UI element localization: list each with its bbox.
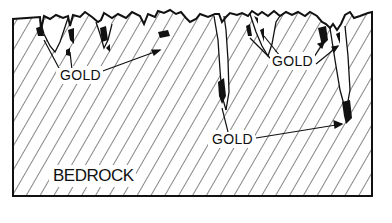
- bedrock-cross-section-diagram: GOLD GOLD GOLD BEDROCK: [0, 0, 392, 223]
- gold-label-deep: GOLD: [210, 132, 255, 146]
- gold-label-right: GOLD: [270, 54, 315, 68]
- gold-label-left: GOLD: [58, 68, 103, 82]
- bedrock-label: BEDROCK: [51, 167, 136, 184]
- bedrock-hatching: [0, 0, 392, 223]
- diagram-artwork: [0, 0, 392, 223]
